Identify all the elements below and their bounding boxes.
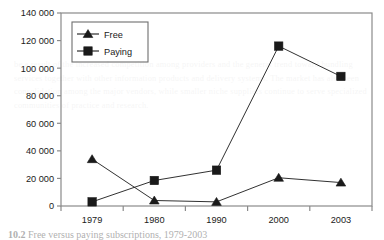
y-axis-tick-label: 20 000 [26, 174, 54, 184]
y-axis: 020 00040 00060 00080 000100 000120 0001… [21, 8, 61, 211]
data-point-marker [87, 155, 97, 163]
x-axis-tick-label: 1979 [82, 215, 102, 225]
legend: FreePaying [72, 22, 148, 62]
line-chart: 020 00040 00060 00080 000100 000120 0001… [0, 0, 384, 240]
y-axis-tick-label: 80 000 [26, 91, 54, 101]
y-axis-tick-label: 120 000 [21, 36, 54, 46]
data-point-marker [275, 42, 283, 50]
series-free [87, 155, 345, 206]
y-axis-tick-label: 100 000 [21, 64, 54, 74]
x-axis-tick-label: 2003 [331, 215, 351, 225]
series-line [92, 159, 341, 202]
x-axis-tick-label: 1990 [206, 215, 226, 225]
x-axis-tick-label: 2000 [268, 215, 288, 225]
data-point-marker [88, 198, 96, 206]
x-axis-tick-label: 1980 [144, 215, 164, 225]
x-axis: 19791980199020002003 [61, 206, 372, 225]
y-axis-tick-label: 40 000 [26, 146, 54, 156]
legend-label: Free [104, 30, 123, 40]
data-point-marker [150, 176, 158, 184]
y-axis-tick-label: 60 000 [26, 119, 54, 129]
legend-marker [84, 47, 92, 55]
y-axis-tick-label: 0 [49, 201, 54, 211]
figure-container: be a result of the increased competition… [0, 0, 384, 240]
legend-label: Paying [104, 47, 132, 57]
series-line [92, 46, 341, 202]
data-point-marker [212, 166, 220, 174]
data-point-marker [274, 173, 284, 181]
data-point-marker [149, 196, 159, 204]
y-axis-tick-label: 140 000 [21, 8, 54, 18]
series-paying [88, 42, 345, 206]
legend-item-paying[interactable]: Paying [77, 47, 132, 57]
data-point-marker [337, 72, 345, 80]
